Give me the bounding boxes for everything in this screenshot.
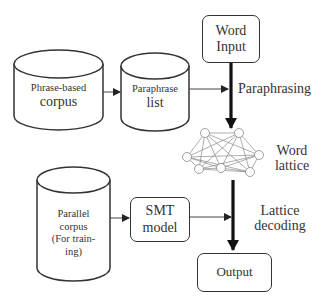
word-lattice-line2: lattice	[268, 158, 316, 173]
smt-model-line2: model	[143, 220, 178, 236]
paraphrase-list-label: Paraphrase list	[121, 83, 189, 110]
smt-model-line1: SMT	[146, 203, 175, 219]
word-input-box: Word Input	[202, 15, 260, 63]
phrase-corpus-label: Phrase-based corpus	[14, 82, 103, 109]
lattice-decoding-label: Lattice decoding	[245, 203, 315, 234]
paraphrase-list-line2: list	[121, 95, 189, 110]
parallel-corpus-line4: ing)	[37, 246, 110, 259]
output-box: Output	[197, 253, 272, 292]
word-lattice-label: Word lattice	[268, 143, 316, 174]
phrase-corpus-line2: corpus	[14, 94, 103, 109]
word-lattice-line1: Word	[268, 143, 316, 158]
word-lattice-graph	[183, 129, 264, 177]
phrase-corpus-line1: Phrase-based	[14, 82, 103, 94]
lattice-decoding-line1: Lattice	[245, 203, 315, 218]
smt-model-box: SMT model	[130, 197, 190, 242]
output-label: Output	[216, 265, 252, 280]
paraphrasing-label: Paraphrasing	[238, 81, 311, 96]
lattice-decoding-line2: decoding	[245, 218, 315, 233]
parallel-corpus-line1: Parallel	[37, 208, 110, 221]
word-input-line1: Word	[216, 23, 247, 39]
parallel-corpus-label: Parallel corpus (For train- ing)	[37, 208, 110, 258]
parallel-corpus-line2: corpus	[37, 221, 110, 234]
word-input-line2: Input	[216, 39, 246, 55]
paraphrase-list-line1: Paraphrase	[121, 83, 189, 95]
parallel-corpus-line3: (For train-	[37, 233, 110, 246]
